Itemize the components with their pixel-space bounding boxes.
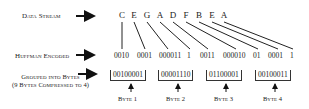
byte-label-1: Byte 1 [118, 95, 137, 102]
grouped-label: Grouped into Bytes (9 Bytes Compressed t… [12, 73, 89, 89]
huffman-code: 01 [253, 51, 261, 60]
huffman-encoded-label: Huffman Encoded [15, 52, 69, 60]
byte-box-3: 01100001 [206, 70, 242, 81]
stream-letter: D [168, 10, 178, 20]
huffman-code: 000010 [223, 51, 246, 60]
grouped-label-line1: Grouped into Bytes [12, 73, 89, 81]
byte-label-4: Byte 4 [263, 95, 282, 102]
huffman-code: 000011 [159, 51, 181, 60]
huffman-code: 0001 [268, 51, 283, 60]
byte-label-2: Byte 2 [166, 95, 185, 102]
byte-box-2: 00001110 [158, 70, 193, 81]
byte-box-1: 00100001 [110, 70, 146, 81]
byte-box-4: 00100011 [255, 70, 291, 81]
stream-letter: F [181, 10, 191, 20]
stream-letter: E [129, 10, 139, 20]
huffman-code: 0010 [114, 51, 129, 60]
huffman-code: 1 [290, 51, 294, 60]
huffman-code: 0011 [200, 51, 215, 60]
stream-letter: A [155, 10, 165, 20]
stream-letter: B [194, 10, 204, 20]
huffman-code: 1 [187, 51, 191, 60]
stream-letter: G [142, 10, 152, 20]
byte-label-3: Byte 3 [214, 95, 233, 102]
stream-letter: E [207, 10, 217, 20]
stream-letter: A [219, 10, 229, 20]
grouped-label-line2: (9 Bytes Compressed to 4) [12, 81, 89, 89]
stream-letter: C [117, 10, 127, 20]
data-stream-label: Data Stream [22, 12, 61, 20]
huffman-code: 0001 [137, 51, 152, 60]
